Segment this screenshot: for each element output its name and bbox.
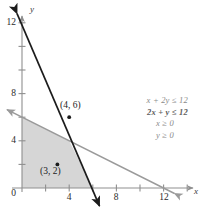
x-tick-label-12: 12 [157, 192, 171, 202]
constraint-row-3: x ≥ 0 [108, 118, 188, 130]
graph-figure: y x 0 4 8 12 4 8 12 (4, 6) (3, 2) x + 2y… [0, 0, 205, 221]
constraint-row-2: 2x + y ≤ 12 [108, 107, 188, 119]
point-label-4-6: (4, 6) [60, 100, 81, 110]
y-tick-label-8: 8 [0, 88, 16, 98]
constraint-row-1: x + 2y ≤ 12 [108, 95, 188, 107]
y-axis-label: y [30, 4, 34, 14]
constraint-list: x + 2y ≤ 12 2x + y ≤ 12 x ≥ 0 y ≥ 0 [108, 95, 188, 141]
x-tick-label-4: 4 [63, 192, 75, 202]
constraint-row-4: y ≥ 0 [108, 130, 188, 142]
data-point-4-6 [67, 115, 71, 119]
x-tick-label-8: 8 [110, 192, 122, 202]
y-tick-label-12: 12 [0, 17, 16, 27]
feasible-region-shading [22, 117, 93, 188]
x-axis-label: x [194, 186, 198, 196]
y-tick-label-4: 4 [0, 135, 16, 145]
origin-tick-label: 0 [4, 188, 16, 198]
point-label-3-2: (3, 2) [40, 166, 61, 176]
